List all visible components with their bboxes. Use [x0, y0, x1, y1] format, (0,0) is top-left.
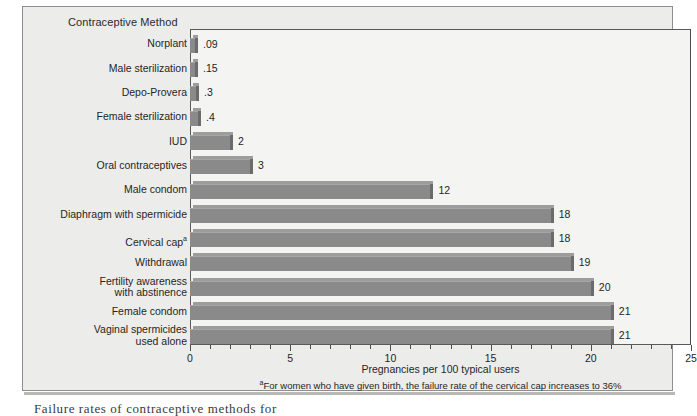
x-axis-minor-tick	[651, 345, 652, 349]
x-axis-major-tick	[190, 345, 191, 351]
plot-area	[190, 29, 691, 345]
x-axis-minor-tick	[410, 345, 411, 349]
footnote-marker: a	[183, 235, 187, 242]
category-label: Male sterilization	[49, 63, 187, 75]
category-label: Fertility awareness with abstinence	[49, 276, 187, 299]
panel-shadow	[24, 392, 675, 395]
category-label: Cervical capa	[49, 233, 187, 248]
x-axis-minor-tick	[511, 345, 512, 349]
footnote: aFor women who have given birth, the fai…	[190, 379, 691, 391]
x-axis-minor-tick	[430, 345, 431, 349]
x-axis-minor-tick	[551, 345, 552, 349]
category-label: Female condom	[49, 306, 187, 318]
x-axis-minor-tick	[270, 345, 271, 349]
figure-panel: Contraceptive Method NorplantMale steril…	[22, 6, 673, 391]
category-axis-labels: NorplantMale sterilizationDepo-ProveraFe…	[49, 29, 187, 345]
x-axis-minor-tick	[230, 345, 231, 349]
x-axis-minor-tick	[451, 345, 452, 349]
category-label: Oral contraceptives	[49, 160, 187, 172]
clipped-caption: Failure rates of contraceptive methods f…	[34, 401, 654, 416]
x-axis-major-tick	[290, 345, 291, 351]
x-axis-minor-tick	[210, 345, 211, 349]
category-label: Diaphragm with spermicide	[49, 209, 187, 221]
category-label: Depo-Provera	[49, 87, 187, 99]
chart-title: Contraceptive Method	[68, 16, 178, 28]
x-axis-minor-tick	[250, 345, 251, 349]
x-axis-minor-tick	[310, 345, 311, 349]
x-axis-title: Pregnancies per 100 typical users	[190, 363, 691, 375]
x-axis-minor-tick	[370, 345, 371, 349]
x-axis-minor-tick	[350, 345, 351, 349]
x-axis-minor-tick	[671, 345, 672, 349]
x-axis-major-tick	[491, 345, 492, 351]
x-axis-minor-tick	[471, 345, 472, 349]
x-axis-minor-tick	[611, 345, 612, 349]
category-label: Norplant	[49, 38, 187, 50]
x-axis-major-tick	[390, 345, 391, 351]
x-axis-minor-tick	[531, 345, 532, 349]
x-axis-minor-tick	[571, 345, 572, 349]
category-label: Vaginal spermicides used alone	[49, 324, 187, 347]
x-axis-major-tick	[591, 345, 592, 351]
x-axis-minor-tick	[631, 345, 632, 349]
x-axis-minor-tick	[330, 345, 331, 349]
category-label: Male condom	[49, 184, 187, 196]
x-axis-major-tick	[691, 345, 692, 351]
category-label: IUD	[49, 136, 187, 148]
category-label: Withdrawal	[49, 257, 187, 269]
footnote-text: For women who have given birth, the fail…	[263, 380, 621, 391]
category-label: Female sterilization	[49, 111, 187, 123]
